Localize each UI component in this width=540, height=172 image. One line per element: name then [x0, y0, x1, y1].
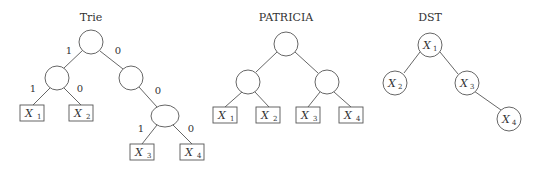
dst-node-x3: X 3	[455, 71, 479, 95]
patricia-leaf-x4: X 4	[339, 107, 363, 123]
svg-text:3: 3	[470, 83, 474, 91]
svg-text:3: 3	[147, 152, 151, 160]
patricia-diagram: PATRICIA X 1 X 2 X 3 X 4	[213, 11, 363, 123]
trie-edge-label: 1	[138, 123, 144, 134]
patricia-edge	[334, 92, 351, 107]
svg-text:X: X	[184, 146, 194, 159]
svg-text:X: X	[387, 77, 397, 90]
patricia-leaf-x3: X 3	[296, 107, 320, 123]
patricia-edge	[295, 52, 318, 73]
patricia-edge	[225, 92, 242, 107]
patricia-internal-node	[315, 70, 339, 94]
dst-edge	[440, 52, 458, 74]
patricia-edge	[308, 92, 320, 107]
trie-leaf-x4: X 4	[180, 144, 204, 160]
patricia-leaf-x1: X 1	[213, 107, 237, 123]
svg-text:4: 4	[512, 119, 517, 127]
svg-text:1: 1	[433, 45, 437, 53]
trie-root-node	[79, 30, 103, 54]
svg-text:X: X	[300, 109, 310, 122]
svg-text:X: X	[459, 77, 469, 90]
trie-internal-node	[151, 105, 179, 127]
svg-text:2: 2	[398, 83, 402, 91]
svg-text:2: 2	[86, 113, 90, 121]
trie-edge-label: 1	[66, 45, 72, 56]
svg-text:3: 3	[313, 115, 317, 123]
tree-comparison-diagram: Trie 1 0 1 0 0 1 0 X 1 X 2	[0, 0, 540, 172]
svg-text:X: X	[343, 109, 353, 122]
trie-leaf-x3: X 3	[130, 144, 154, 160]
dst-title: DST	[418, 11, 442, 24]
patricia-root-node	[274, 32, 298, 56]
trie-internal-node	[119, 66, 143, 90]
svg-text:X: X	[422, 39, 432, 52]
trie-edge-label: 0	[155, 85, 161, 96]
svg-text:X: X	[134, 146, 144, 159]
svg-text:1: 1	[37, 113, 41, 121]
svg-text:1: 1	[230, 115, 234, 123]
dst-node-x2: X 2	[383, 71, 407, 95]
trie-diagram: Trie 1 0 1 0 0 1 0 X 1 X 2	[20, 11, 204, 160]
svg-text:X: X	[73, 107, 83, 120]
patricia-title: PATRICIA	[259, 11, 314, 24]
patricia-edge	[255, 92, 269, 107]
trie-edge-label: 0	[188, 123, 194, 134]
trie-edge-label: 1	[30, 83, 36, 94]
trie-title: Trie	[80, 11, 103, 24]
dst-node-x1: X 1	[418, 33, 442, 57]
trie-leaf-x1: X 1	[20, 105, 44, 121]
trie-edge-label: 0	[77, 83, 83, 94]
patricia-internal-node	[236, 70, 260, 94]
svg-text:2: 2	[273, 115, 277, 123]
trie-leaf-x2: X 2	[69, 105, 93, 121]
trie-edge	[142, 125, 157, 144]
dst-edge	[404, 52, 420, 73]
patricia-leaf-x2: X 2	[256, 107, 280, 123]
svg-text:X: X	[260, 109, 270, 122]
patricia-edge	[256, 52, 277, 72]
svg-text:4: 4	[356, 115, 361, 123]
svg-text:X: X	[501, 113, 511, 126]
trie-edge-label: 0	[115, 45, 121, 56]
dst-edge	[474, 91, 501, 110]
svg-text:X: X	[24, 107, 34, 120]
dst-node-x4: X 4	[497, 107, 521, 131]
svg-text:X: X	[217, 109, 227, 122]
dst-diagram: DST X 1 X 2 X 3 X 4	[383, 11, 521, 131]
svg-text:4: 4	[197, 152, 202, 160]
trie-internal-node	[45, 66, 69, 90]
